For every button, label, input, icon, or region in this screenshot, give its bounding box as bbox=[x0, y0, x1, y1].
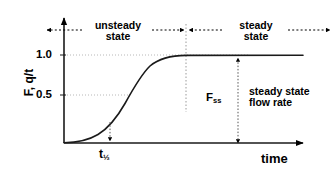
t-half-label: t½ bbox=[99, 148, 110, 161]
fss-subscript: ss bbox=[213, 96, 221, 105]
y-tick-label-0-5: 0.5 bbox=[36, 88, 52, 100]
steady-state-flow-rate-label: steady state flow rate bbox=[249, 86, 310, 109]
unsteady-state-label: unsteady state bbox=[82, 20, 154, 43]
fss-symbol: F bbox=[206, 91, 213, 103]
figure-container: F, q/t 1.0 0.5 unsteady state steady sta… bbox=[0, 0, 335, 175]
fss-label: Fss bbox=[206, 91, 221, 103]
y-tick-label-1-0: 1.0 bbox=[36, 48, 52, 60]
steady-state-label: steady state bbox=[224, 20, 288, 43]
y-axis-title: F, q/t bbox=[23, 47, 36, 117]
t-half-subscript: ½ bbox=[103, 153, 110, 162]
x-axis-title: time bbox=[261, 152, 288, 166]
